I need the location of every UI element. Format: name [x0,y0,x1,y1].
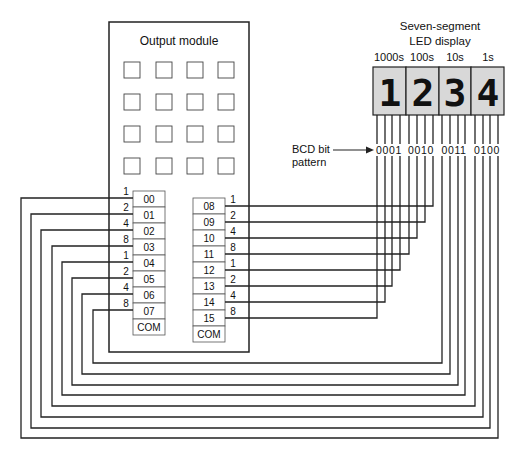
right-arrow-icon [333,147,374,154]
terminal-12: 12 [203,265,215,276]
svg-text:4: 4 [230,226,236,237]
svg-text:1: 1 [123,250,129,261]
wires-left-block [21,156,498,438]
svg-text:2: 2 [230,210,236,221]
terminal-com-right: COM [197,329,220,340]
bcd-label-line1: BCD bit [292,143,330,155]
svg-text:8: 8 [123,298,129,309]
terminal-07: 07 [143,306,155,317]
terminal-14: 14 [203,297,215,308]
svg-text:4: 4 [123,282,129,293]
place-100s: 100s [410,51,434,63]
terminal-01: 01 [143,210,155,221]
svg-text:8: 8 [230,306,236,317]
display-title-line2: LED display [409,35,471,47]
left-weights: 1 2 4 8 1 2 4 8 [123,186,129,309]
terminal-00: 00 [143,194,155,205]
display-pins [377,115,498,144]
bcd-label-line2: pattern [292,156,326,168]
svg-text:0011: 0011 [442,144,467,156]
terminal-10: 10 [203,233,215,244]
module-title: Output module [140,34,219,48]
svg-text:2: 2 [123,202,129,213]
terminal-13: 13 [203,281,215,292]
place-1000s: 1000s [374,51,404,63]
terminal-com-left: COM [137,322,160,333]
svg-text:1: 1 [123,186,129,197]
digit-1s: 4 [477,71,500,115]
right-weights: 1 2 4 8 1 2 4 8 [230,194,236,317]
terminal-04: 04 [143,258,155,269]
svg-text:8: 8 [123,234,129,245]
svg-text:1: 1 [230,258,236,269]
svg-text:4: 4 [230,290,236,301]
svg-text:1: 1 [230,194,236,205]
svg-text:0010: 0010 [408,144,434,156]
seven-segment-display: 1 2 3 4 [373,67,504,115]
digit-100s: 2 [412,71,435,115]
terminal-02: 02 [143,226,155,237]
wires-right-block [225,156,433,318]
display-title-line1: Seven-segment [400,20,481,32]
bcd-wiring-diagram: Output module 00 01 02 03 04 05 06 07 CO… [0,0,524,454]
terminal-06: 06 [143,290,155,301]
place-1s: 1s [482,51,494,63]
place-10s: 10s [446,51,464,63]
terminal-08: 08 [203,201,215,212]
terminal-15: 15 [203,313,215,324]
terminal-03: 03 [143,242,155,253]
bcd-bits: 0001 0010 0011 0100 [376,144,500,156]
terminal-09: 09 [203,217,215,228]
svg-text:4: 4 [123,218,129,229]
left-terminal-block: 00 01 02 03 04 05 06 07 COM [133,191,165,335]
terminal-11: 11 [204,249,215,260]
digit-10s: 3 [444,71,467,115]
svg-text:2: 2 [123,266,129,277]
svg-text:0100: 0100 [474,144,500,156]
digit-1000s: 1 [379,71,402,115]
terminal-05: 05 [143,274,155,285]
indicator-grid [124,62,234,174]
svg-text:8: 8 [230,242,236,253]
right-terminal-block: 08 09 10 11 12 13 14 15 COM [193,198,225,342]
svg-text:0001: 0001 [376,144,402,156]
svg-text:2: 2 [230,274,236,285]
